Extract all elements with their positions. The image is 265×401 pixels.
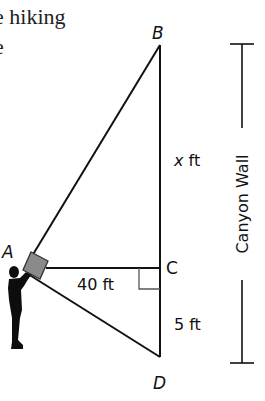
canyon-wall-label: Canyon Wall [233, 154, 252, 253]
line-AB [26, 45, 160, 266]
hiker-silhouette-icon [8, 266, 33, 349]
right-angle-marker [139, 268, 160, 289]
measure-BC: x ft [173, 151, 200, 170]
measure-AC: 40 ft [77, 275, 114, 294]
point-label-B: B [152, 23, 164, 43]
point-label-C: C [166, 258, 178, 278]
point-label-D: D [153, 373, 166, 393]
variable-x: x [173, 151, 184, 170]
canyon-triangle-diagram: B A C D x ft 40 ft 5 ft Canyon Wall [0, 0, 265, 401]
point-label-A: A [1, 242, 14, 262]
measure-CD: 5 ft [174, 315, 201, 334]
